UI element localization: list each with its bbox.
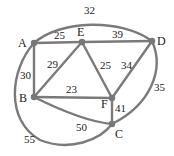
node-label-D: D bbox=[157, 34, 166, 48]
node-B bbox=[31, 94, 37, 100]
weight-B-F: 23 bbox=[66, 83, 78, 95]
weight-A-D: 32 bbox=[84, 4, 95, 16]
edge-D-F bbox=[112, 41, 152, 98]
weight-A-B: 30 bbox=[20, 69, 32, 81]
weight-D-C: 35 bbox=[154, 81, 166, 93]
weight-F-C: 41 bbox=[115, 102, 126, 114]
node-A bbox=[31, 40, 37, 46]
node-F bbox=[109, 95, 115, 101]
edge-A-C bbox=[15, 43, 112, 145]
weight-A-E: 25 bbox=[54, 29, 66, 41]
weight-E-F: 25 bbox=[100, 59, 112, 71]
node-label-C: C bbox=[115, 127, 123, 141]
node-label-A: A bbox=[18, 36, 27, 50]
weight-D-F: 34 bbox=[121, 59, 133, 71]
weight-B-C: 50 bbox=[76, 121, 88, 133]
graph-diagram: A E D B F C 25 39 30 29 25 34 23 41 50 3… bbox=[0, 0, 174, 156]
node-label-F: F bbox=[101, 97, 108, 111]
node-E bbox=[79, 39, 85, 45]
node-label-E: E bbox=[77, 25, 84, 39]
weight-E-D: 39 bbox=[112, 28, 124, 40]
weight-A-C: 55 bbox=[24, 133, 36, 145]
node-D bbox=[149, 38, 155, 44]
edge-E-D bbox=[82, 41, 152, 42]
node-label-B: B bbox=[19, 91, 27, 105]
weight-B-E: 29 bbox=[47, 58, 59, 70]
edge-A-E bbox=[34, 42, 82, 43]
